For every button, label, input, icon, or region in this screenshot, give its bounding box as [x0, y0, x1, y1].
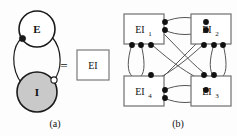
terminal-dot-ei3-top-mid-icon — [211, 72, 217, 78]
excitatory-terminal-filled-dot-icon — [19, 35, 25, 41]
terminal-dot-ei2-bottom-mid-icon — [211, 42, 217, 48]
unit-ei1-subscript: 1 — [148, 30, 152, 38]
terminal-dot-ei3-top-left-icon — [201, 72, 207, 78]
unit-ei3-subscript: 3 — [215, 92, 219, 100]
edge-e-to-i — [52, 37, 60, 80]
edge-ei1-ei4-a — [128, 44, 132, 76]
edge-ei1-ei4-b — [141, 44, 144, 76]
unit-ei4-label: EI — [135, 86, 144, 97]
node-i-label: I — [35, 86, 39, 98]
inhibitory-terminal-open-circle-icon — [51, 77, 57, 83]
panel-a-single-ei-unit: I E = EI (a) — [0, 0, 118, 136]
equivalent-ei-box-label: EI — [88, 60, 97, 71]
node-e-label: E — [33, 23, 40, 35]
terminal-dot-ei4-top-right-icon — [148, 72, 154, 78]
unit-ei2-subscript: 2 — [215, 30, 219, 38]
terminal-dot-ei1-bottom-mid-icon — [138, 42, 144, 48]
unit-ei4-subscript: 4 — [148, 92, 152, 100]
terminal-dot-ei3-left-upper-icon — [203, 87, 209, 93]
terminal-dot-ei1-bottom-right-icon — [148, 42, 154, 48]
equivalence-equals-sign: = — [60, 58, 67, 73]
edge-ei2-ei3-a — [210, 44, 214, 76]
terminal-dot-ei1-bottom-left-icon — [129, 42, 135, 48]
figure-root: I E = EI (a) — [0, 0, 237, 136]
panel-b-four-ei-network: EI 1 EI 2 EI 4 EI 3 — [118, 0, 237, 136]
terminal-dot-ei4-right-upper-icon — [162, 87, 168, 93]
terminal-dot-ei2-bottom-left-icon — [201, 42, 207, 48]
caption-a: (a) — [49, 118, 60, 130]
terminal-dot-ei4-right-lower-icon — [162, 95, 168, 101]
unit-ei1-label: EI — [135, 24, 144, 35]
terminal-dot-ei2-bottom-right-icon — [220, 42, 226, 48]
edge-ei2-ei3-b — [223, 44, 226, 76]
terminal-dot-ei1-right-lower-icon — [162, 27, 168, 33]
terminal-dot-ei2-left-upper-icon — [203, 19, 209, 25]
caption-b: (b) — [172, 118, 184, 130]
edge-i-to-e — [14, 38, 22, 84]
terminal-dot-ei1-right-upper-icon — [162, 19, 168, 25]
terminal-dot-ei2-left-lower-icon — [203, 27, 209, 33]
